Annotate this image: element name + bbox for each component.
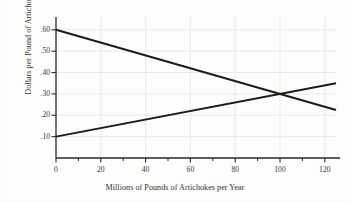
grid-lines [56,17,336,158]
axis-ticks [52,30,325,163]
series-line-supply [56,83,336,136]
data-series [56,30,336,137]
plot-area [0,0,350,202]
series-line-demand [56,30,336,110]
chart-figure: Dollars per Pound of Artichokes Millions… [0,0,350,202]
